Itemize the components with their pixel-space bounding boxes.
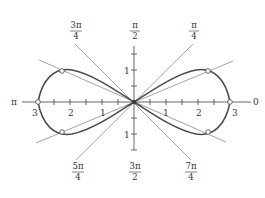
polar-lemniscate-figure: 3 2 1 1 2 3 1 1 π 0 3π 4 π 2 π 4 5π 4 xyxy=(0,0,265,198)
label-3pi-over-4: 3π 4 xyxy=(70,20,82,41)
svg-text:4: 4 xyxy=(73,31,78,41)
svg-text:2: 2 xyxy=(132,31,137,41)
svg-text:3π: 3π xyxy=(71,20,82,30)
x-label-left-1: 1 xyxy=(100,108,106,118)
label-pi: π xyxy=(11,97,17,107)
point-lower-left xyxy=(60,130,65,135)
point-left-vertex xyxy=(36,100,41,105)
point-right-vertex xyxy=(228,100,233,105)
svg-text:3π: 3π xyxy=(130,161,141,171)
label-pi-over-2: π 2 xyxy=(130,20,140,41)
label-7pi-over-4: 7π 4 xyxy=(185,161,197,182)
origin-point xyxy=(132,100,136,104)
svg-text:2: 2 xyxy=(132,172,137,182)
svg-text:4: 4 xyxy=(188,172,193,182)
point-upper-left xyxy=(60,69,65,74)
y-label-down-1: 1 xyxy=(124,130,130,140)
svg-text:4: 4 xyxy=(75,172,80,182)
point-lower-right xyxy=(206,130,211,135)
svg-text:5π: 5π xyxy=(73,161,84,171)
label-3pi-over-2: 3π 2 xyxy=(129,161,141,182)
y-label-up-1: 1 xyxy=(124,66,130,76)
x-label-right-3: 3 xyxy=(232,108,238,118)
point-upper-right xyxy=(206,69,211,74)
svg-text:7π: 7π xyxy=(186,161,197,171)
x-label-left-3: 3 xyxy=(32,108,38,118)
label-5pi-over-4: 5π 4 xyxy=(72,161,84,182)
label-zero: 0 xyxy=(253,97,259,107)
svg-text:4: 4 xyxy=(191,31,196,41)
x-label-left-2: 2 xyxy=(68,108,74,118)
svg-text:π: π xyxy=(191,20,197,30)
x-label-right-2: 2 xyxy=(196,108,202,118)
label-pi-over-4: π 4 xyxy=(189,20,199,41)
svg-text:π: π xyxy=(132,20,138,30)
x-label-right-1: 1 xyxy=(163,108,169,118)
